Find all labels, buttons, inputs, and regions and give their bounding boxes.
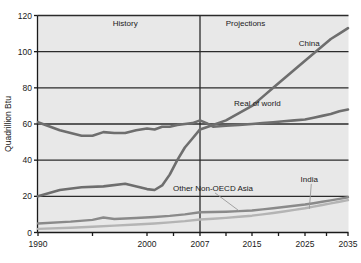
y-tick-label-20: 20 (23, 191, 33, 201)
y-tick-label-100: 100 (18, 47, 32, 57)
series-label-rest-of-world: Real of world (234, 99, 281, 108)
x-tick-label-2000: 2000 (138, 239, 157, 249)
projections-label: Projections (226, 19, 266, 28)
series-label-china: China (299, 39, 320, 48)
energy-consumption-line-chart: 020406080100120199020002007201520252035Q… (0, 0, 361, 263)
series-label-india: India (301, 175, 319, 184)
y-tick-label-120: 120 (18, 11, 32, 21)
x-tick-label-2007: 2007 (191, 239, 210, 249)
chart-svg: 020406080100120199020002007201520252035Q… (0, 0, 361, 263)
series-label-other-non-oecd-asia: Other Non-OECD Asia (173, 184, 254, 193)
x-tick-label-1990: 1990 (29, 239, 48, 249)
history-label: History (113, 19, 138, 28)
x-tick-label-2025: 2025 (296, 239, 315, 249)
y-tick-label-80: 80 (23, 83, 33, 93)
y-tick-label-60: 60 (23, 119, 33, 129)
y-tick-label-0: 0 (27, 228, 32, 238)
x-tick-label-2015: 2015 (243, 239, 262, 249)
y-tick-label-40: 40 (23, 155, 33, 165)
x-tick-label-2035: 2035 (339, 239, 358, 249)
y-axis-title: Quadrillion Btu (3, 96, 13, 152)
